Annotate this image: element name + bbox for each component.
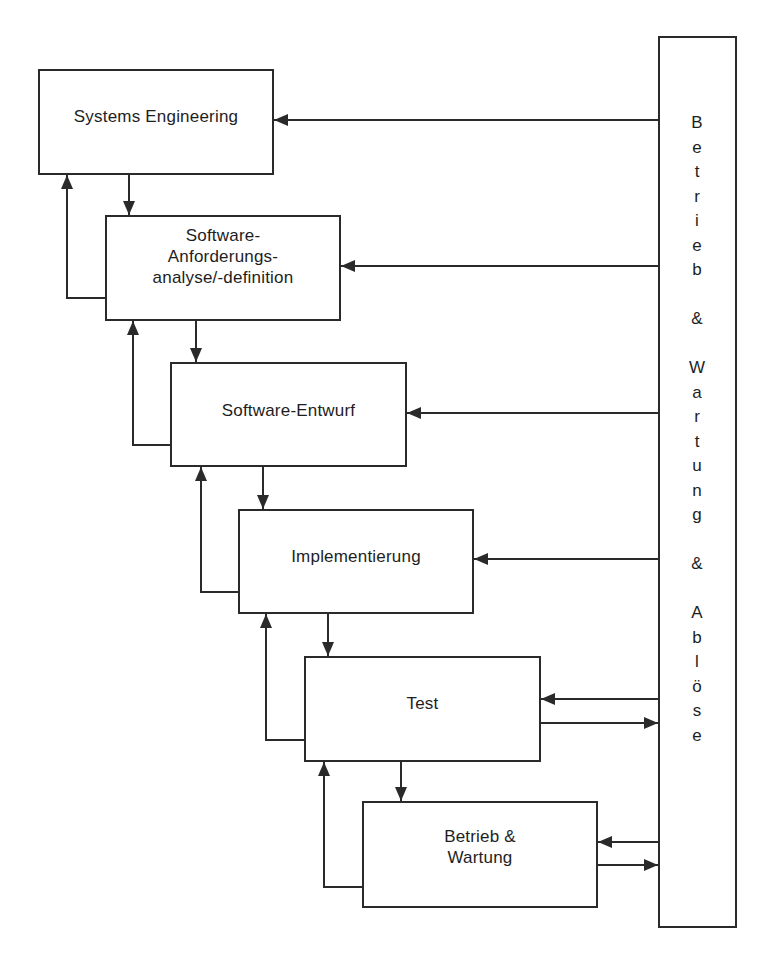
- side-bar-char: &: [682, 309, 712, 329]
- side-bar-char: l: [682, 652, 712, 672]
- arrowhead-icon: [644, 859, 658, 871]
- side-bar-char: i: [682, 211, 712, 231]
- connector-feedback-up: [133, 321, 170, 445]
- side-bar-char: u: [682, 456, 712, 476]
- connector-feedback-up: [324, 762, 362, 887]
- arrowhead-icon: [274, 114, 288, 126]
- side-bar-char: e: [682, 236, 712, 256]
- arrowhead-icon: [195, 467, 207, 481]
- arrowhead-icon: [541, 693, 555, 705]
- side-bar-char: &: [682, 554, 712, 574]
- side-bar-char: r: [682, 187, 712, 207]
- arrowhead-icon: [123, 201, 135, 215]
- phase-label: Anforderungs-: [168, 246, 278, 267]
- side-bar-char: W: [682, 358, 712, 378]
- side-bar-char: B: [682, 113, 712, 133]
- arrowhead-icon: [598, 836, 612, 848]
- side-bar-char: e: [682, 138, 712, 158]
- side-bar-char: ö: [682, 677, 712, 697]
- phase-label: analyse/-definition: [153, 267, 294, 288]
- arrowhead-icon: [190, 348, 202, 362]
- side-bar-char: e: [682, 726, 712, 746]
- waterfall-diagram: Systems Engineering Software- Anforderun…: [0, 0, 773, 970]
- arrowhead-icon: [127, 321, 139, 335]
- phase-test: Test: [304, 656, 541, 762]
- arrowhead-icon: [318, 762, 330, 776]
- arrowhead-icon: [407, 407, 421, 419]
- arrowhead-icon: [322, 642, 334, 656]
- phase-label: Test: [407, 693, 439, 714]
- side-bar-char: r: [682, 407, 712, 427]
- phase-software-design: Software-Entwurf: [170, 362, 407, 467]
- side-bar-char: t: [682, 162, 712, 182]
- arrowhead-icon: [474, 553, 488, 565]
- side-bar-char: b: [682, 260, 712, 280]
- side-bar-char: a: [682, 383, 712, 403]
- phase-label: Systems Engineering: [74, 106, 238, 127]
- connector-feedback-up: [67, 175, 105, 298]
- side-bar-char: s: [682, 701, 712, 721]
- arrowhead-icon: [257, 495, 269, 509]
- phase-label: Software-Entwurf: [222, 400, 356, 421]
- arrowhead-icon: [644, 717, 658, 729]
- phase-label: Wartung: [447, 847, 512, 868]
- phase-label: Implementierung: [291, 546, 421, 567]
- side-bar-char: t: [682, 432, 712, 452]
- side-bar-char: g: [682, 505, 712, 525]
- phase-systems-engineering: Systems Engineering: [38, 69, 274, 175]
- phase-operation-maintenance: Betrieb & Wartung: [362, 801, 598, 908]
- arrowhead-icon: [260, 614, 272, 628]
- phase-label: Betrieb &: [444, 826, 516, 847]
- phase-requirements-analysis: Software- Anforderungs- analyse/-definit…: [105, 215, 341, 321]
- side-bar-char: n: [682, 481, 712, 501]
- side-bar-char: b: [682, 628, 712, 648]
- connector-feedback-up: [201, 467, 238, 592]
- arrowhead-icon: [341, 260, 355, 272]
- phase-implementation: Implementierung: [238, 509, 474, 614]
- arrowhead-icon: [395, 787, 407, 801]
- phase-label: Software-: [186, 225, 261, 246]
- arrowhead-icon: [61, 175, 73, 189]
- side-bar-char: A: [682, 603, 712, 623]
- connector-feedback-up: [266, 614, 304, 740]
